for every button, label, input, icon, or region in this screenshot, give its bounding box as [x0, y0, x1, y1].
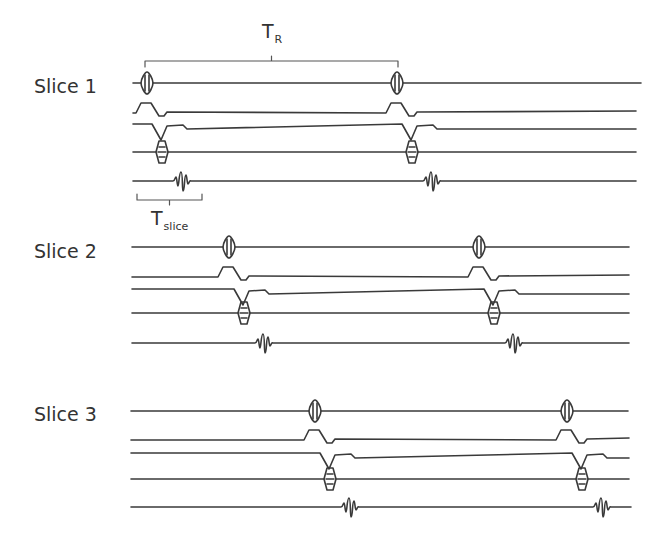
rf-pulse-icon [473, 236, 485, 258]
echo-signal [132, 334, 629, 353]
rf-pulse-icon [309, 400, 321, 422]
rf-pulse-lines [313, 403, 317, 419]
rf-pulse-lines [227, 239, 231, 255]
slice-1-sequence [133, 72, 641, 191]
phase-encode-gradient [132, 289, 629, 305]
phase-encode-steps [240, 308, 248, 318]
tslice-bracket [137, 194, 202, 205]
phase-encode-steps [158, 147, 166, 157]
slice-3-label: Slice 3 [34, 403, 97, 425]
rf-pulse-icon [391, 72, 403, 94]
tr-label: TR [262, 20, 282, 46]
tslice-label: Tslice [151, 207, 188, 233]
slice-2-sequence [132, 236, 629, 353]
slice-select-gradient [132, 267, 629, 280]
tslice-label-sub: slice [164, 220, 189, 233]
slice-2-label: Slice 2 [34, 240, 97, 262]
rf-pulse-icon [561, 400, 573, 422]
phase-encode-steps [326, 474, 334, 484]
slice-1-label: Slice 1 [34, 75, 97, 97]
phase-encode-steps [490, 308, 498, 318]
rf-pulse-lines [477, 239, 481, 255]
phase-encode-gradient [133, 124, 636, 140]
echo-signal [131, 498, 631, 517]
phase-encode-steps [578, 474, 586, 484]
slice-select-gradient [131, 430, 629, 443]
phase-encode-gradient [131, 453, 629, 469]
rf-pulse-lines [145, 75, 149, 91]
rf-pulse-icon [223, 236, 235, 258]
rf-pulse-icon [141, 72, 153, 94]
pulse-sequence-diagram [0, 0, 665, 543]
tr-label-main: T [262, 20, 274, 42]
rf-pulse-lines [395, 75, 399, 91]
echo-signal [133, 172, 636, 191]
tr-bracket [145, 56, 398, 67]
slice-select-gradient [133, 103, 636, 116]
tslice-label-main: T [151, 207, 163, 229]
phase-encode-steps [408, 147, 416, 157]
rf-pulse-lines [565, 403, 569, 419]
slice-3-sequence [131, 400, 631, 517]
tr-label-sub: R [275, 33, 283, 46]
